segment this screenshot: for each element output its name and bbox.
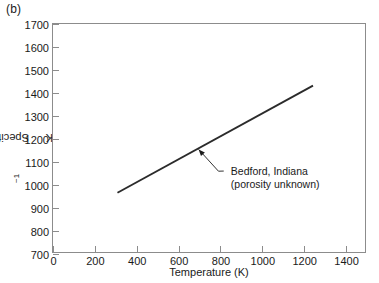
x-axis-title: Temperature (K) bbox=[52, 266, 366, 278]
y-axis-title-exp2: −1 bbox=[12, 174, 21, 183]
annotation-line-1: Bedford, Indiana bbox=[231, 165, 320, 178]
plot-area: 7008009001000110012001300140015001600170… bbox=[52, 23, 366, 253]
y-tick-label: 1000 bbox=[25, 180, 49, 192]
y-tick-label: 1700 bbox=[25, 19, 49, 31]
y-tick-label: 1300 bbox=[25, 111, 49, 123]
y-tick-label: 700 bbox=[31, 249, 49, 261]
y-tick-label: 1600 bbox=[25, 42, 49, 54]
annotation-label: Bedford, Indiana (porosity unknown) bbox=[231, 165, 320, 191]
figure-panel-b: (b) Specific heat (J kg−1 K−1) 700800900… bbox=[0, 0, 379, 283]
panel-label: (b) bbox=[6, 2, 21, 16]
y-tick-label: 1500 bbox=[25, 65, 49, 77]
y-tick-label: 900 bbox=[31, 203, 49, 215]
y-tick-label: 1100 bbox=[25, 157, 49, 169]
y-tick-label: 1200 bbox=[25, 134, 49, 146]
annotation-line-2: (porosity unknown) bbox=[231, 178, 320, 191]
plot-inner: 7008009001000110012001300140015001600170… bbox=[53, 24, 365, 252]
y-tick-label: 1400 bbox=[25, 88, 49, 100]
annotation-leader-layer bbox=[53, 24, 365, 252]
y-tick-label: 800 bbox=[31, 226, 49, 238]
y-axis-title: Specific heat (J kg−1 K−1) bbox=[0, 23, 16, 253]
